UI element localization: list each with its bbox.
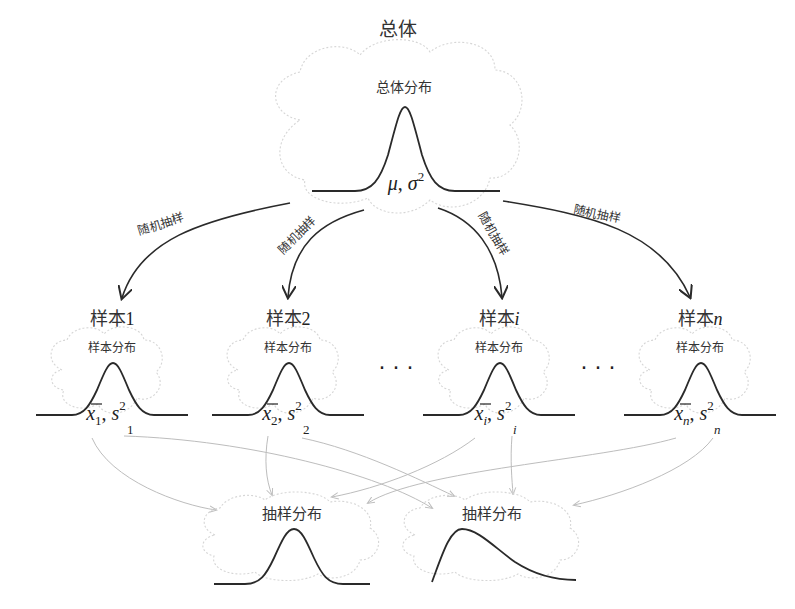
sample-n-title: 样本n (678, 308, 723, 329)
sampling-distribution-diagram: 总体 总体分布 μ, σ2 随机抽样 随机抽样 随机抽样 随机抽样 样本1 样本… (0, 0, 795, 609)
sample-i-title: 样本i (478, 308, 519, 329)
sample-2-var-subscript: 2 (303, 422, 310, 437)
sample-1-distribution-label: 样本分布 (88, 340, 136, 355)
sample-1-var-subscript: 1 (127, 422, 134, 437)
arrow-s1-to-dist2 (124, 436, 432, 508)
arrow-label-1: 随机抽样 (136, 210, 186, 238)
ellipsis-2: · · · (581, 355, 616, 380)
sample-n-group: 样本n 样本分布 xn, s2 n (624, 308, 776, 437)
population-distribution-label: 总体分布 (376, 79, 432, 95)
arrow-label-i: 随机抽样 (475, 209, 512, 258)
sampling-distribution-1-label: 抽样分布 (262, 505, 322, 523)
arrow-label-2: 随机抽样 (275, 213, 320, 258)
sample-i-group: 样本i 样本分布 xi, s2 i (423, 308, 575, 437)
population-params: μ, σ2 (387, 169, 424, 195)
arrow-sn-to-dist1 (368, 438, 676, 503)
sample-n-var-subscript: n (714, 422, 721, 437)
statistic-arrows (92, 436, 713, 510)
sampling-distribution-2-group: 抽样分布 (403, 492, 579, 582)
sample-2-stats: x2, s2 (261, 398, 302, 428)
arrow-s1-to-dist1 (92, 438, 216, 510)
arrow-to-sample-1 (122, 203, 290, 298)
sample-1-group: 样本1 样本分布 x1, s2 1 (36, 308, 188, 437)
sample-i-var-subscript: i (513, 422, 517, 437)
sampling-distribution-1-group: 抽样分布 (203, 492, 379, 584)
sample-n-distribution-label: 样本分布 (676, 340, 724, 355)
ellipsis-1: · · · (379, 355, 414, 380)
sample-2-title: 样本2 (266, 308, 311, 329)
sample-2-group: 样本2 样本分布 x2, s2 2 (212, 308, 364, 437)
sample-i-distribution-label: 样本分布 (475, 340, 523, 355)
sample-2-distribution-label: 样本分布 (264, 340, 312, 355)
population-title: 总体 (379, 18, 417, 40)
arrow-sn-to-dist2 (574, 438, 713, 505)
arrow-si-to-dist2 (511, 436, 513, 494)
sample-1-stats: x1, s2 (85, 398, 126, 428)
random-sampling-arrows: 随机抽样 随机抽样 随机抽样 随机抽样 (122, 201, 690, 298)
sampling-distribution-1-curve (214, 529, 370, 584)
sample-n-stats: xn, s2 (673, 398, 714, 428)
population-group: 总体 总体分布 μ, σ2 (276, 18, 522, 213)
sampling-distribution-2-skewed-curve (432, 529, 576, 582)
sample-1-title: 样本1 (90, 308, 135, 329)
arrow-label-n: 随机抽样 (572, 201, 622, 226)
arrow-s2-to-dist1 (266, 436, 272, 495)
arrow-s2-to-dist2 (302, 438, 454, 496)
sampling-distribution-2-label: 抽样分布 (462, 505, 522, 523)
sample-i-stats: xi, s2 (474, 398, 512, 428)
